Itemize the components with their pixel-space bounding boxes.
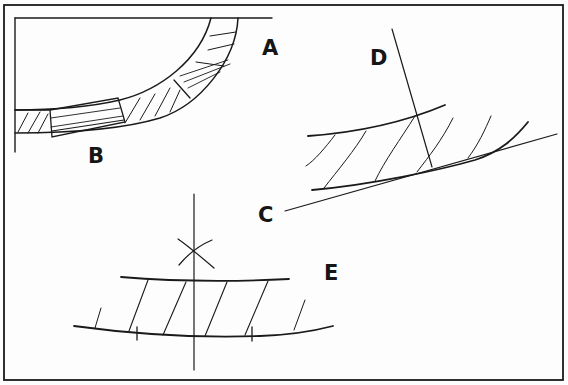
label-b: B (88, 146, 104, 167)
label-a: A (262, 38, 278, 59)
e-upper-curve (121, 277, 289, 281)
label-c: C (258, 205, 273, 226)
diagram-drawing (0, 0, 568, 385)
ring-inner-curve (15, 18, 211, 110)
panel-a-b (15, 18, 272, 152)
diagram-canvas: A B C D E (0, 0, 568, 385)
panel-e (74, 194, 333, 370)
panel-c-d (285, 29, 557, 211)
label-e: E (324, 263, 338, 284)
normal-line-d (392, 29, 432, 167)
compass-arc-1 (178, 239, 214, 268)
label-d: D (370, 48, 387, 69)
e-lower-curve (74, 326, 333, 337)
strip-upper-curve (308, 105, 445, 136)
outer-frame (4, 5, 563, 380)
